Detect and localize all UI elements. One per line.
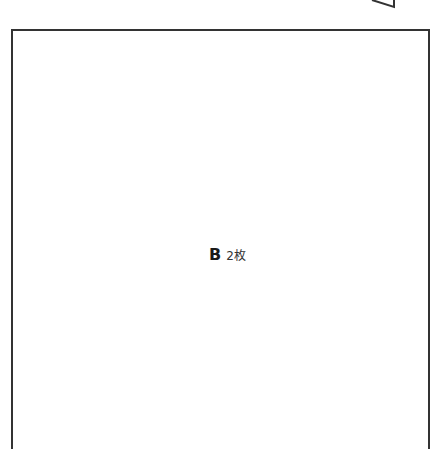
pattern-panel: [11, 29, 430, 449]
triangle-mark-icon: [0, 0, 447, 30]
panel-count: 2枚: [226, 247, 246, 265]
panel-letter: B: [209, 246, 221, 264]
panel-label: B 2枚: [209, 246, 246, 265]
